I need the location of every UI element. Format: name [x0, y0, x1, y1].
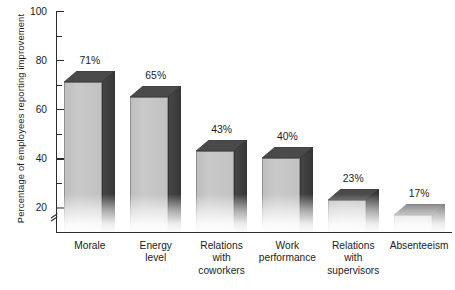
- bar-front-face: [64, 82, 102, 232]
- bar-front-face: [196, 151, 234, 232]
- bar-top-face: [394, 204, 445, 216]
- bar-front-face: [262, 158, 300, 232]
- bar-top-face: [130, 86, 181, 98]
- bar-front-face: [394, 215, 432, 232]
- bar-3[interactable]: [196, 140, 247, 232]
- bar-top-face: [196, 140, 247, 152]
- x-category-label: Morale: [53, 240, 127, 252]
- bar-top-face: [262, 147, 313, 159]
- bar-top-face: [328, 189, 379, 201]
- bar-value-label: 40%: [261, 131, 313, 142]
- x-category-label: Relations with coworkers: [185, 240, 259, 277]
- bar-4[interactable]: [262, 147, 313, 232]
- bar-1[interactable]: [64, 71, 115, 232]
- y-tick-label: 60: [13, 104, 47, 115]
- plot-area: [57, 11, 452, 232]
- bar-chart: Percentage of employees reporting improv…: [0, 0, 455, 290]
- x-category-label: Energy level: [119, 240, 193, 265]
- bar-value-label: 23%: [327, 173, 379, 184]
- bar-side-face: [102, 71, 115, 232]
- y-tick-label: 40: [13, 153, 47, 164]
- bar-side-face: [234, 140, 247, 232]
- y-tick-label: 20: [13, 202, 47, 213]
- y-axis-title: Percentage of employees reporting improv…: [15, 3, 26, 235]
- bar-value-label: 43%: [196, 124, 248, 135]
- bar-5[interactable]: [328, 189, 379, 232]
- x-category-label: Absenteeism: [382, 240, 455, 252]
- bar-top-face: [64, 71, 115, 83]
- x-category-label: Work performance: [250, 240, 324, 265]
- bar-value-label: 17%: [393, 188, 445, 199]
- bar-side-face: [168, 86, 181, 232]
- y-tick-label: 100: [13, 6, 47, 17]
- bar-value-label: 65%: [130, 70, 182, 81]
- bar-front-face: [130, 97, 168, 232]
- y-tick-label: 80: [13, 55, 47, 66]
- x-category-label: Relations with supervisors: [316, 240, 390, 277]
- x-axis-line: [56, 232, 452, 233]
- bar-6[interactable]: [394, 204, 445, 232]
- bar-2[interactable]: [130, 86, 181, 232]
- bar-value-label: 71%: [64, 55, 116, 66]
- bar-side-face: [300, 147, 313, 232]
- bar-front-face: [328, 200, 366, 232]
